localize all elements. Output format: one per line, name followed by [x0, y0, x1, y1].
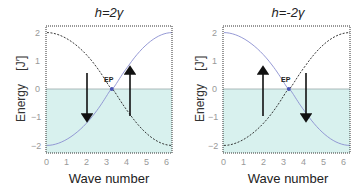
- svg-text:−2: −2: [31, 141, 41, 151]
- svg-text:2: 2: [84, 157, 89, 167]
- ep-label: EP: [281, 76, 291, 83]
- svg-text:−1: −1: [208, 112, 218, 122]
- svg-text:0: 0: [44, 157, 49, 167]
- svg-text:−1: −1: [31, 112, 41, 122]
- svg-text:3: 3: [281, 157, 286, 167]
- svg-text:5: 5: [144, 157, 149, 167]
- svg-text:4: 4: [301, 157, 306, 167]
- svg-text:2: 2: [261, 157, 266, 167]
- svg-text:6: 6: [164, 157, 169, 167]
- svg-text:−2: −2: [208, 141, 218, 151]
- y-ticks: 2 1 0 −1 −2: [208, 28, 218, 151]
- svg-text:0: 0: [221, 157, 226, 167]
- svg-text:1: 1: [64, 157, 69, 167]
- svg-text:0: 0: [35, 84, 40, 94]
- plot-area: EP 2 1 0 −1 −2 0 1 2 3 4 5 6: [0, 0, 180, 192]
- svg-text:0: 0: [212, 84, 217, 94]
- svg-text:1: 1: [35, 56, 40, 66]
- ep-point: [287, 87, 291, 91]
- chart-panel-right: h=-2γ Energy [J′] Wave number EP 2 1 0 −…: [177, 0, 359, 192]
- chart-panel-left: h=2γ Energy [J′] Wave number EP 2 1 0 −1…: [0, 0, 180, 192]
- y-ticks: 2 1 0 −1 −2: [31, 28, 41, 151]
- ep-label: EP: [104, 76, 114, 83]
- svg-text:3: 3: [104, 157, 109, 167]
- svg-text:4: 4: [124, 157, 129, 167]
- x-ticks: 0 1 2 3 4 5 6: [221, 157, 346, 167]
- svg-text:1: 1: [212, 56, 217, 66]
- svg-text:2: 2: [35, 28, 40, 38]
- ep-point: [110, 87, 114, 91]
- negative-energy-fill: [223, 89, 350, 153]
- x-ticks: 0 1 2 3 4 5 6: [44, 157, 169, 167]
- svg-text:2: 2: [212, 28, 217, 38]
- plot-area: EP 2 1 0 −1 −2 0 1 2 3 4 5 6: [177, 0, 359, 192]
- svg-text:6: 6: [341, 157, 346, 167]
- svg-text:1: 1: [241, 157, 246, 167]
- svg-text:5: 5: [321, 157, 326, 167]
- negative-energy-fill: [46, 89, 172, 153]
